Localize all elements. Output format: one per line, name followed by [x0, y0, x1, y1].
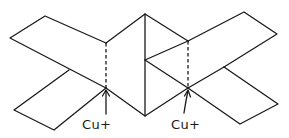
- cut-label-left: Cu+: [82, 118, 111, 131]
- left-arrow-icon: [103, 90, 110, 114]
- lower-right-plane: [188, 67, 278, 124]
- cut-label-right: Cu+: [171, 118, 200, 131]
- structure-diagram: [0, 0, 289, 138]
- right-arrow-icon: [184, 90, 191, 113]
- upper-right-plane: [188, 12, 277, 67]
